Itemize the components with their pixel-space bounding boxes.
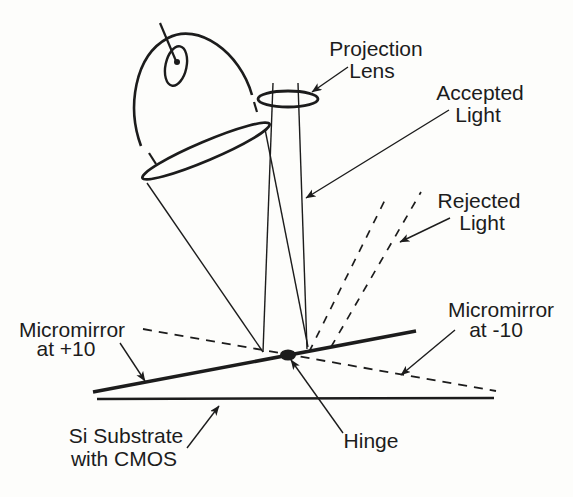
micromirror-plus-leader-arrow	[120, 343, 145, 381]
lamp-arc-point	[174, 59, 180, 65]
accepted-light-ray-right	[298, 83, 307, 349]
si-substrate-label-line1: Si Substrate	[69, 424, 183, 447]
micromirror-minus-10-line	[143, 329, 496, 391]
illumination-ray-left	[147, 183, 263, 352]
accepted-light-label-line2: Light	[455, 103, 501, 126]
rejected-light-ray-left	[309, 196, 387, 352]
lamp-bulb-outline-dash-right	[254, 102, 257, 112]
lamp-bulb-outline-dash-left	[149, 153, 156, 164]
hinge-label: Hinge	[344, 429, 399, 452]
rejected-light-label-line1: Rejected	[438, 189, 521, 212]
micromirror-plus-label-line2: at +10	[37, 337, 96, 360]
diagram-page: Projection Lens Accepted Light Rejected …	[0, 0, 573, 497]
projection-lens-leader-arrow	[312, 67, 348, 92]
illumination-ray-right	[265, 129, 308, 347]
projection-lens-label-line1: Projection	[329, 37, 422, 60]
condenser-lens	[139, 115, 273, 186]
projection-lens-label-line2: Lens	[349, 59, 395, 82]
rejected-light-ray-right	[331, 192, 421, 347]
micromirror-optics-diagram: Projection Lens Accepted Light Rejected …	[0, 0, 573, 497]
accepted-light-label-line1: Accepted	[436, 81, 524, 104]
si-substrate-leader-arrow	[187, 406, 219, 448]
rejected-light-leader-arrow	[400, 218, 450, 242]
accepted-light-leader-arrow	[306, 110, 449, 198]
rejected-light-label-line2: Light	[459, 211, 505, 234]
si-substrate-line	[97, 398, 494, 399]
si-substrate-label-line2: with CMOS	[70, 447, 177, 470]
lamp-filament-ellipse	[162, 44, 191, 87]
micromirror-minus-leader-arrow	[401, 330, 455, 375]
micromirror-minus-label-line2: at -10	[469, 318, 523, 341]
projection-lens	[258, 91, 318, 107]
hinge-dot	[280, 350, 296, 361]
hinge-leader-arrow	[291, 360, 343, 433]
